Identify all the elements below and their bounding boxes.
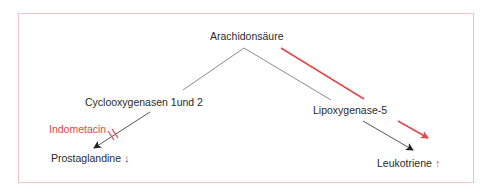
node-cyclooxygenasen: Cyclooxygenasen 1und 2 (85, 96, 203, 108)
edge-root-to-cox (183, 48, 244, 90)
node-lipoxygenase: Lipoxygenase-5 (313, 104, 387, 116)
edge-red-shunt-line (281, 48, 364, 99)
node-label: Leukotriene (377, 157, 432, 169)
node-label: Cyclooxygenasen 1und 2 (85, 96, 203, 108)
node-label: Prostaglandine (51, 152, 121, 164)
node-label: Arachidonsäure (210, 30, 284, 42)
arrow-down-icon: ↓ (124, 152, 130, 164)
edge-red-shunt-arrow (398, 121, 428, 138)
inhibitor-indometacin: Indometacin (49, 123, 106, 135)
inhibitor-label: Indometacin (49, 123, 106, 135)
edge-root-to-lox (244, 48, 331, 100)
node-prostaglandine: Prostaglandine↓ (51, 152, 130, 164)
arrow-up-icon: ↑ (435, 157, 441, 169)
node-leukotriene: Leukotriene↑ (377, 157, 440, 169)
node-label: Lipoxygenase-5 (313, 104, 387, 116)
node-arachidonsaeure: Arachidonsäure (210, 30, 284, 42)
